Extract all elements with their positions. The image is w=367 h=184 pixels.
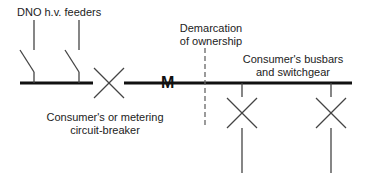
circuit-breaker-label: Consumer's or metering circuit-breaker: [40, 111, 170, 137]
consumer-busbars-label: Consumer's busbars and switchgear: [233, 53, 353, 79]
circuit-breaker-label-line1: Consumer's or metering: [40, 111, 170, 124]
metering-circuit-breaker-icon: [94, 68, 124, 98]
demarcation-label-line2: of ownership: [163, 35, 259, 48]
demarcation-label-line1: Demarcation: [163, 22, 259, 35]
circuit-breaker-label-line2: circuit-breaker: [40, 124, 170, 137]
consumer-busbars-label-line1: Consumer's busbars: [233, 53, 353, 66]
meter-label: M: [161, 75, 174, 91]
feeder-2-switch-icon: [65, 20, 79, 83]
consumer-breaker-2-icon: [316, 83, 346, 173]
consumer-busbars-label-line2: and switchgear: [233, 66, 353, 79]
demarcation-label: Demarcation of ownership: [163, 22, 259, 48]
consumer-breaker-1-icon: [227, 83, 257, 173]
feeder-1-switch-icon: [20, 20, 34, 83]
feeders-label: DNO h.v. feeders: [17, 6, 101, 19]
